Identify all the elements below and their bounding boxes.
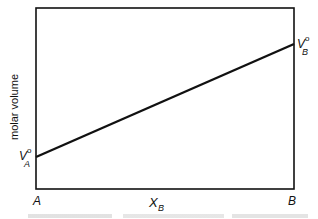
x-tick-a: A (33, 195, 41, 207)
plot-frame (36, 8, 294, 189)
cut-off-caption (28, 214, 308, 218)
vb-subscript: B (302, 47, 308, 57)
plot-area (0, 0, 318, 219)
data-line (36, 44, 294, 157)
vb-superscript: o (305, 34, 309, 43)
va-subscript: A (24, 159, 30, 169)
x-tick-b: B (288, 195, 296, 207)
y-axis-label: molar volume (8, 74, 20, 140)
va-superscript: o (27, 146, 31, 155)
x-axis-label-subscript: B (158, 203, 164, 213)
x-axis-label-main: X (149, 196, 158, 209)
